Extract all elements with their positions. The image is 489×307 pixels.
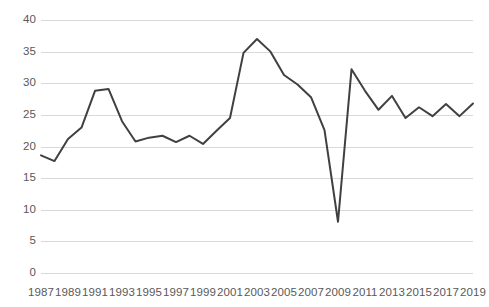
y-axis-tick-label: 35	[2, 46, 36, 58]
y-axis: 4035302520151050	[0, 0, 36, 307]
line-chart: 4035302520151050 19871989199119931995199…	[0, 0, 489, 307]
x-axis-tick-label: 1987	[28, 286, 54, 298]
x-axis-tick-label: 2001	[217, 286, 243, 298]
x-axis-tick-label: 2015	[406, 286, 432, 298]
y-axis-tick-label: 30	[2, 77, 36, 89]
x-axis-tick-label: 1993	[109, 286, 135, 298]
series-layer	[41, 20, 473, 273]
x-axis-tick-label: 2019	[460, 286, 486, 298]
y-axis-tick-label: 15	[2, 172, 36, 184]
plot-area	[41, 20, 473, 273]
y-axis-tick-label: 40	[2, 14, 36, 26]
series-line	[41, 39, 473, 222]
x-axis-tick-label: 2017	[433, 286, 459, 298]
y-axis-tick-label: 20	[2, 141, 36, 153]
x-axis-tick-label: 2011	[352, 286, 377, 298]
x-axis-tick-label: 1995	[136, 286, 162, 298]
y-axis-tick-label: 25	[2, 109, 36, 121]
x-axis-tick-label: 2007	[298, 286, 324, 298]
y-axis-tick-label: 5	[2, 235, 36, 247]
y-axis-tick-label: 0	[2, 267, 36, 279]
x-axis-tick-label: 2013	[379, 286, 405, 298]
x-axis: 1987198919911993199519971999200120032005…	[41, 286, 473, 304]
x-axis-tick-label: 1999	[190, 286, 216, 298]
x-axis-tick-label: 2003	[244, 286, 270, 298]
y-axis-tick-label: 10	[2, 204, 36, 216]
x-axis-tick-label: 2005	[271, 286, 297, 298]
x-axis-tick-label: 1997	[163, 286, 189, 298]
x-axis-tick-label: 2009	[325, 286, 351, 298]
x-axis-tick-label: 1991	[82, 286, 108, 298]
x-axis-tick-label: 1989	[55, 286, 81, 298]
gridline-0	[41, 273, 473, 274]
